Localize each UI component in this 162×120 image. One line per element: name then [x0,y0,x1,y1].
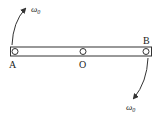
rod [11,47,152,56]
omega-bottom-label: ω0 [126,102,135,113]
omega-arrow-top-icon [12,9,25,45]
omega-arrow-bottom-icon [134,58,148,98]
pin-a-icon [12,49,18,55]
label-o: O [79,59,86,70]
label-b: B [143,35,150,46]
rod-diagram: A O B ω0 ω0 [0,0,162,120]
pin-b-icon [143,49,149,55]
pin-o-icon [80,49,86,55]
label-a: A [9,59,17,70]
omega-top-label: ω0 [31,4,40,15]
